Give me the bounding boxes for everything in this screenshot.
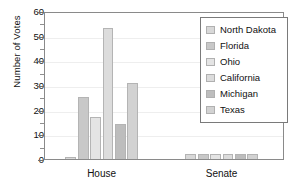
bar xyxy=(65,157,76,159)
legend-swatch-icon xyxy=(206,106,215,114)
legend-item-label: Michigan xyxy=(220,89,258,99)
legend-item[interactable]: Texas xyxy=(206,102,282,118)
bar xyxy=(235,154,246,159)
bar xyxy=(247,154,258,159)
x-axis-tick-label: Senate xyxy=(182,168,262,179)
legend-swatch-icon xyxy=(206,74,215,82)
bar xyxy=(78,97,89,159)
bar xyxy=(115,124,126,159)
legend-swatch-icon xyxy=(206,90,215,98)
bar xyxy=(223,154,234,159)
legend-item-label: Ohio xyxy=(220,57,240,67)
legend-item[interactable]: Michigan xyxy=(206,86,282,102)
legend-item-label: Texas xyxy=(220,105,245,115)
bar-chart: Number of Votes 0102030405060 HouseSenat… xyxy=(0,0,294,196)
bar xyxy=(103,28,114,159)
legend-item[interactable]: North Dakota xyxy=(206,22,282,38)
bar xyxy=(127,83,138,159)
legend-swatch-icon xyxy=(206,42,215,50)
bar xyxy=(198,154,209,159)
y-axis-tick-major xyxy=(38,160,44,161)
legend: North DakotaFloridaOhioCaliforniaMichiga… xyxy=(200,17,288,123)
legend-item[interactable]: Ohio xyxy=(206,54,282,70)
legend-swatch-icon xyxy=(206,58,215,66)
legend-swatch-icon xyxy=(206,26,215,34)
legend-item[interactable]: Florida xyxy=(206,38,282,54)
legend-item-label: Florida xyxy=(220,41,249,51)
legend-item[interactable]: California xyxy=(206,70,282,86)
legend-item-label: North Dakota xyxy=(220,25,276,35)
bar xyxy=(185,154,196,159)
bar xyxy=(90,117,101,159)
legend-item-label: California xyxy=(220,73,260,83)
x-axis-tick-label: House xyxy=(62,168,142,179)
bar xyxy=(210,154,221,159)
